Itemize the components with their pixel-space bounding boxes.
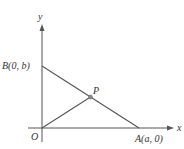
point-p-label: P [92,85,99,96]
y-axis-arrowhead [40,24,45,31]
coordinate-diagram: x y B(0, b) P O A(a, 0) [0,0,184,149]
point-a-label: A(a, 0) [134,133,163,145]
x-axis-arrowhead [167,126,174,131]
point-p-marker [89,95,93,99]
segment-op [42,97,91,128]
point-b-label: B(0, b) [2,60,30,72]
x-axis-label: x [176,122,182,133]
origin-label: O [31,131,38,142]
y-axis-label: y [37,11,43,22]
